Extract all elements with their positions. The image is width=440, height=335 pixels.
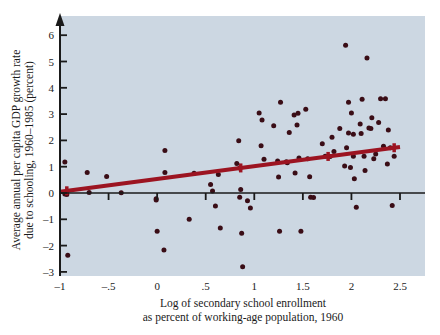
y-tick-label-5: 5 [49, 56, 55, 68]
data-point [85, 170, 90, 175]
data-point [348, 165, 353, 170]
data-point [311, 195, 316, 200]
data-point [238, 187, 243, 192]
data-point [155, 229, 160, 234]
x-tick-label--1: –1 [54, 280, 66, 292]
y-tick-label-3: 3 [49, 108, 55, 120]
y-tick-label-2: 2 [49, 134, 55, 146]
data-point [260, 117, 265, 122]
data-point [298, 229, 303, 234]
data-point [295, 122, 300, 127]
x-tick-label-1.5: 1.5 [296, 280, 310, 292]
y-tick-label--3: –3 [42, 266, 55, 278]
data-point [161, 248, 166, 253]
data-point [162, 148, 167, 153]
data-point [62, 159, 67, 164]
data-point [276, 174, 281, 179]
scatter-chart-figure: –3–2–10123456–1–.50.511.522.5Log of seco… [0, 0, 440, 335]
data-point [337, 126, 342, 131]
x-tick-label--0.5: –.5 [101, 280, 116, 292]
x-tick-label-2.5: 2.5 [393, 280, 407, 292]
data-point [371, 156, 376, 161]
data-point [259, 143, 264, 148]
data-point [364, 56, 369, 61]
data-point [293, 171, 298, 176]
y-axis-title-line1: Average annual per capita GDP growth rat… [10, 50, 23, 251]
data-point [360, 97, 365, 102]
data-point [369, 115, 374, 120]
data-point [363, 168, 368, 173]
data-point [287, 130, 292, 135]
data-point [346, 100, 351, 105]
y-axis-title-line2: due to schooling, 1960–1985 (percent) [23, 61, 36, 239]
data-point [303, 107, 308, 112]
data-point [262, 157, 267, 162]
data-point [351, 132, 356, 137]
data-point [240, 264, 245, 269]
data-point [237, 195, 242, 200]
data-point [245, 198, 250, 203]
data-point [376, 120, 381, 125]
data-point [187, 217, 192, 222]
y-tick-label--2: –2 [42, 240, 54, 252]
x-tick-label-0: 0 [154, 280, 160, 292]
plot-background [60, 16, 425, 276]
data-point [358, 122, 363, 127]
data-point [349, 111, 354, 116]
data-point [320, 141, 325, 146]
data-point [278, 100, 283, 105]
data-point [390, 203, 395, 208]
data-point [359, 131, 364, 136]
data-point [218, 225, 223, 230]
data-point [236, 138, 241, 143]
x-tick-label-0.5: .5 [202, 280, 211, 292]
data-point [392, 154, 397, 159]
data-point [208, 182, 213, 187]
data-point [344, 145, 349, 150]
chart-canvas: –3–2–10123456–1–.50.511.522.5Log of seco… [0, 0, 440, 335]
data-point [368, 126, 373, 131]
data-point [213, 203, 218, 208]
y-tick-label-1: 1 [49, 161, 55, 173]
data-point [362, 154, 367, 159]
data-point [386, 127, 391, 132]
data-point [331, 149, 336, 154]
data-point [271, 123, 276, 128]
data-point [343, 43, 348, 48]
data-point [352, 176, 357, 181]
data-point [162, 170, 167, 175]
data-point [104, 174, 109, 179]
data-point [346, 131, 351, 136]
data-point [378, 96, 383, 101]
data-point [257, 111, 262, 116]
data-point [248, 205, 253, 210]
data-point [383, 96, 388, 101]
y-tick-label-0: 0 [49, 187, 55, 199]
plot-background-group [60, 16, 425, 276]
x-tick-label-2: 2 [349, 280, 355, 292]
data-point [307, 174, 312, 179]
data-point [342, 163, 347, 168]
data-point [385, 162, 390, 167]
y-tick-label-6: 6 [49, 29, 55, 41]
x-tick-label-1: 1 [252, 280, 258, 292]
x-axis-title-line2: as percent of working-age population, 19… [143, 311, 344, 324]
data-point [277, 229, 282, 234]
data-point [296, 111, 301, 116]
data-point [234, 161, 239, 166]
y-tick-label--1: –1 [42, 213, 54, 225]
data-point [65, 253, 70, 258]
data-point [239, 231, 244, 236]
data-point [330, 135, 335, 140]
y-tick-label-4: 4 [49, 82, 55, 94]
x-axis-title-line1: Log of secondary school enrollment [160, 297, 327, 310]
data-point [354, 205, 359, 210]
